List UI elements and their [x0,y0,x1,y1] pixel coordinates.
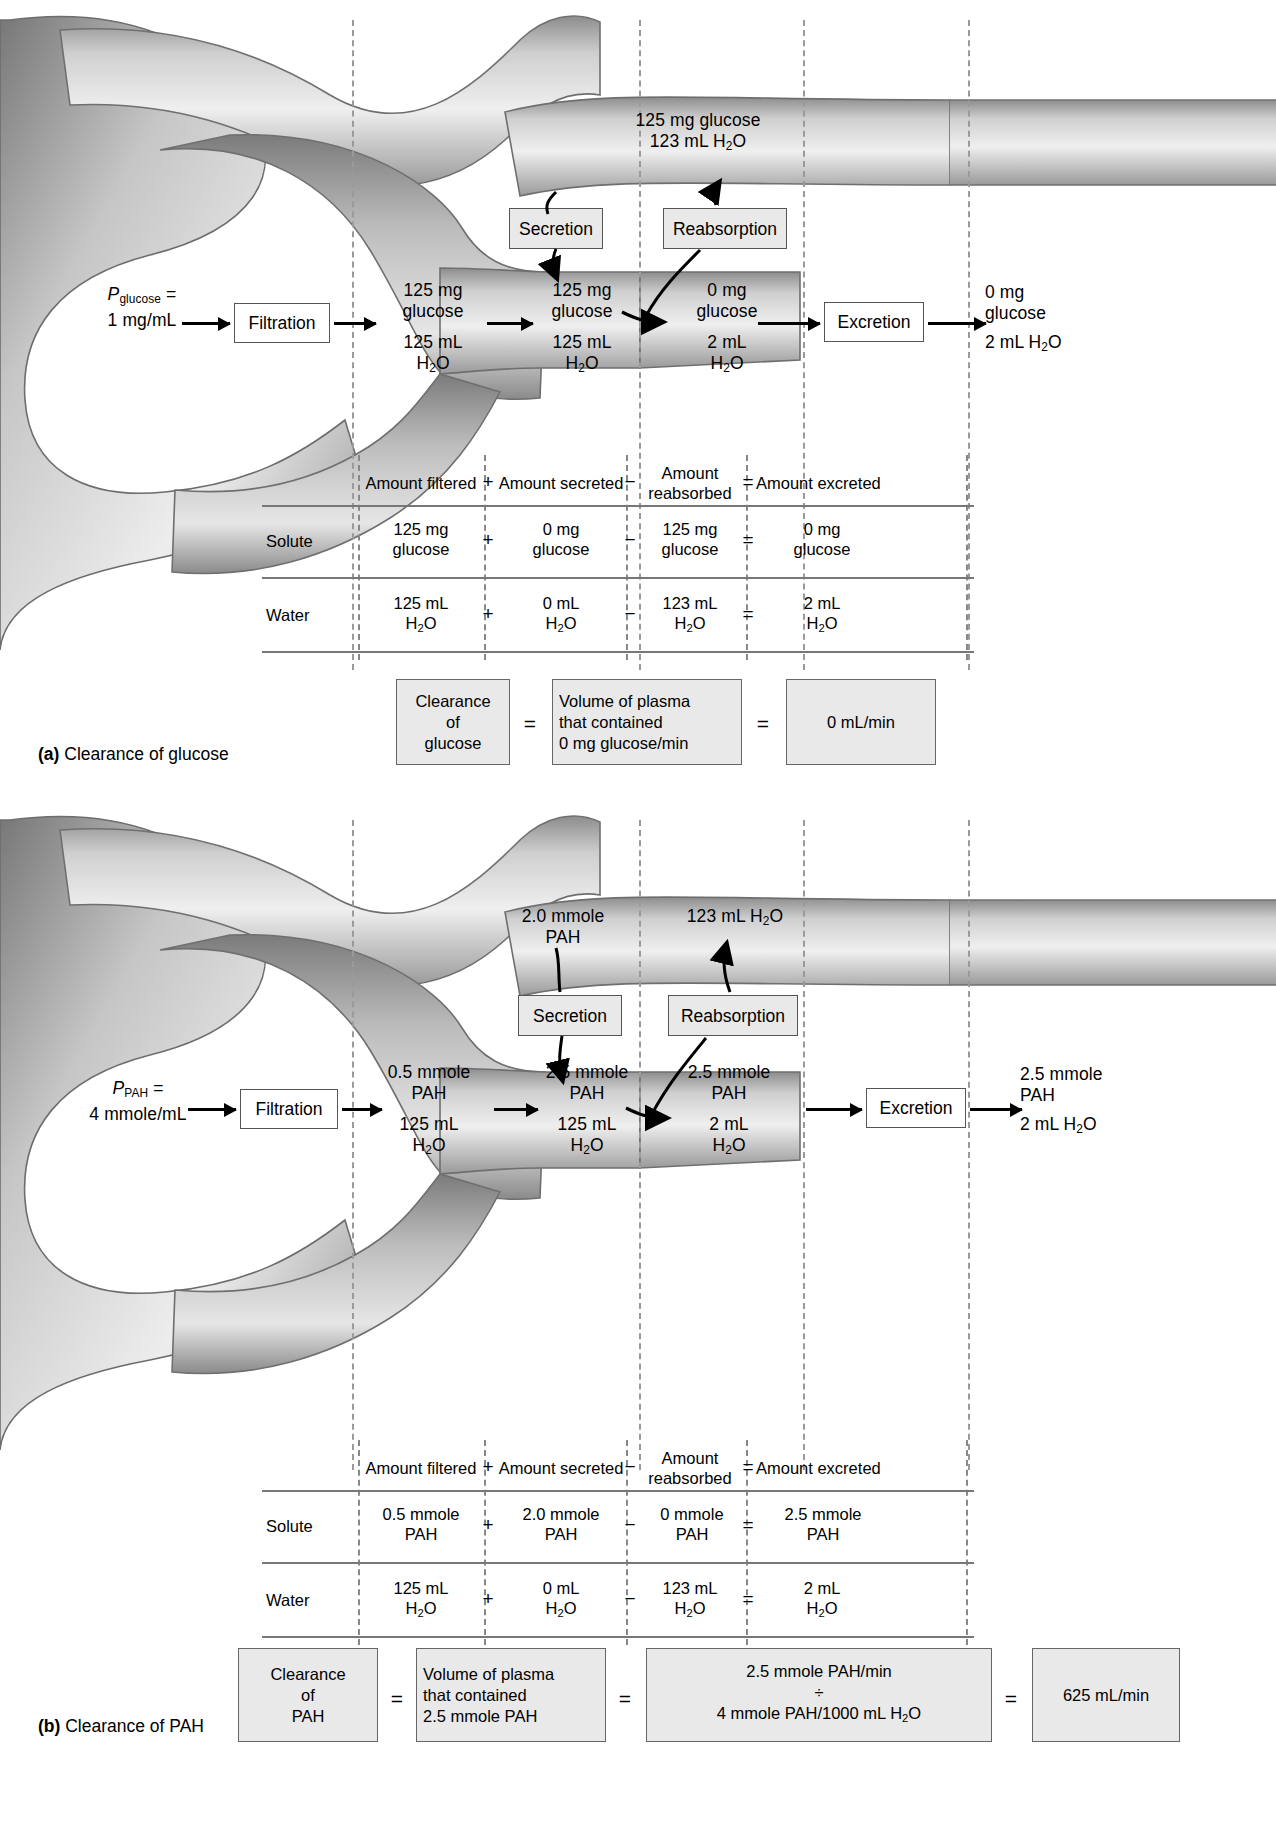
tubule-stage-3-pah: 2.5 mmole PAH 2 mL H2O [664,1062,794,1161]
cell-solute-filtered: 0.5 mmole PAH [358,1504,484,1544]
panel-b-caption: (b) Clearance of PAH [38,1716,204,1737]
clearance-term-box-glucose: Clearance of glucose [396,679,510,765]
plasma-concentration-pah: PPAH = 4 mmole/mL [48,1078,228,1125]
table-col-divider [966,455,968,660]
header-amount-reabsorbed: Amount reabsorbed [638,463,742,503]
cell-solute-reabsorbed: 125 mg glucose [638,519,742,559]
table-rule [262,651,974,653]
stage2-solute-name: glucose [527,301,637,322]
op-equals: = [740,604,756,624]
clearance-line3: glucose [415,733,490,754]
filtration-box-glucose[interactable]: Filtration [234,303,330,343]
definition-line3: 0 mg glucose/min [559,733,690,754]
clearance-line3: PAH [270,1706,345,1727]
header-amount-excreted: Amount excreted [756,1458,896,1478]
stage1-water-amount: 125 mL [364,1114,494,1135]
clearance-equals-1: = [386,1687,408,1711]
definition-line1: Volume of plasma [559,691,690,712]
clearance-equals-2: = [752,712,774,736]
filtration-label: Filtration [248,313,315,333]
cell-solute-secreted: 2.0 mmole PAH [496,1504,626,1544]
tubule-stage-2-pah: 2.5 mmole PAH 125 mL H2O [522,1062,652,1161]
stage3-solute-name: glucose [672,301,782,322]
op-plus: + [480,530,496,550]
plasma-value: 1 mg/mL [62,310,222,331]
tubule-stage-1-pah: 0.5 mmole PAH 125 mL H2O [364,1062,494,1161]
tubule-stage-2-glucose: 125 mg glucose 125 mL H2O [527,280,637,379]
tubule-stage-1-glucose: 125 mg glucose 125 mL H2O [378,280,488,379]
reabsorption-label: Reabsorption [673,219,777,239]
clearance-line2: of [415,712,490,733]
stage3-solute-amount: 2.5 mmole [664,1062,794,1083]
stage2-water-amount: 125 mL [522,1114,652,1135]
stage1-solute-amount: 125 mg [378,280,488,301]
definition-line1: Volume of plasma [423,1664,554,1685]
op-equals: = [740,1589,756,1609]
stage1-solute-name: glucose [378,301,488,322]
mass-balance-table-glucose: Amount filtered + Amount secreted − Amou… [262,455,974,660]
stage1-water-formula: H2O [378,353,488,379]
stage1-solute-name: PAH [364,1083,494,1104]
cell-solute-excreted: 0 mg glucose [762,519,882,559]
arrow-to-excretion-pah [806,1108,862,1111]
computation-divide-sign: ÷ [717,1682,921,1703]
cell-water-filtered: 125 mL H2O [362,1578,480,1623]
reabsorption-box-glucose[interactable]: Reabsorption [663,208,787,249]
arrow-from-excretion-glucose [928,322,986,325]
cell-water-reabsorbed: 123 mL H2O [638,1578,742,1623]
header-amount-excreted: Amount excreted [756,473,896,493]
stage1-water-amount: 125 mL [378,332,488,353]
clearance-equals-2: = [614,1687,636,1711]
secretion-label: Secretion [519,219,593,239]
header-amount-filtered: Amount filtered [362,473,480,493]
secretion-box-pah[interactable]: Secretion [518,995,622,1036]
excreted-solute-name: glucose [985,303,1115,324]
cell-solute-excreted: 2.5 mmole PAH [758,1504,888,1544]
excreted-water: 2 mL H2O [985,332,1115,358]
stage2-solute-name: PAH [522,1083,652,1104]
clearance-line1: Clearance [270,1664,345,1685]
op-equals: = [740,530,756,550]
header-op-equals: = [740,472,756,492]
definition-line3: 2.5 mmole PAH [423,1706,554,1727]
clearance-line2: of [270,1685,345,1706]
stage2-water-formula: H2O [527,353,637,379]
header-reabsorbed-line2: reabsorbed [638,1468,742,1488]
excreted-water: 2 mL H2O [1020,1114,1180,1140]
excretion-label: Excretion [838,312,911,332]
header-op-minus: − [622,1457,638,1477]
stage1-water-formula: H2O [364,1135,494,1161]
capillary-water-label-pah: 123 mL H2O [650,906,820,932]
plasma-symbol-line: PPAH = [48,1078,228,1104]
cell-water-reabsorbed: 123 mL H2O [638,593,742,638]
capillary-water-value: 123 mL H2O [650,906,820,932]
computation-line3: 4 mmole PAH/1000 mL H2O [717,1703,921,1729]
arrow-from-excretion-pah [970,1108,1022,1111]
header-amount-secreted: Amount secreted [496,473,626,493]
cell-water-filtered: 125 mL H2O [362,593,480,638]
cell-water-secreted: 0 mL H2O [496,1578,626,1623]
excreted-solute-name: PAH [1020,1085,1180,1106]
filtration-box-pah[interactable]: Filtration [240,1089,338,1129]
cell-water-excreted: 2 mL H2O [762,1578,882,1623]
reabsorption-box-pah[interactable]: Reabsorption [668,995,798,1036]
excretion-box-glucose[interactable]: Excretion [824,302,924,342]
cell-solute-reabsorbed: 0 mmole PAH [638,1504,746,1544]
capillary-solute-line2: PAH [488,927,638,948]
table-rule [262,505,974,507]
capillary-solute-label-pah: 2.0 mmole PAH [488,906,638,948]
table-col-divider [966,1440,968,1645]
arrow-to-filtration-glucose [182,322,230,325]
clearance-definition-box-glucose: Volume of plasma that contained 0 mg glu… [552,679,742,765]
capillary-solute-line1: 2.0 mmole [488,906,638,927]
panel-b-caption-text: Clearance of PAH [65,1716,204,1736]
panel-a-caption-text: Clearance of glucose [64,744,228,764]
excretion-box-pah[interactable]: Excretion [866,1088,966,1128]
header-amount-reabsorbed: Amount reabsorbed [638,1448,742,1488]
computation-line1: 2.5 mmole PAH/min [717,1661,921,1682]
secretion-box-glucose[interactable]: Secretion [509,208,603,249]
definition-line2: that contained [423,1685,554,1706]
column-guide [352,820,354,1470]
stage3-water-amount: 2 mL [664,1114,794,1135]
excreted-label-pah: 2.5 mmole PAH 2 mL H2O [1020,1064,1180,1140]
